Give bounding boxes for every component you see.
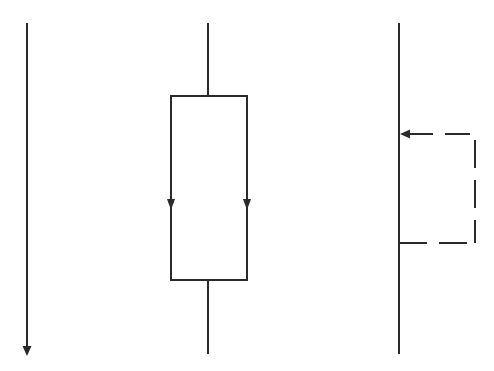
branch-box [171, 96, 247, 280]
left-arrow-icon [400, 130, 410, 139]
diagram-canvas [0, 0, 494, 371]
loop-back-panel [399, 23, 475, 354]
parallel-branch-panel [167, 23, 251, 354]
down-arrow-icon [23, 346, 32, 356]
down-arrow-icon [167, 199, 175, 210]
sequence-panel [23, 23, 32, 356]
down-arrow-icon [243, 199, 251, 210]
